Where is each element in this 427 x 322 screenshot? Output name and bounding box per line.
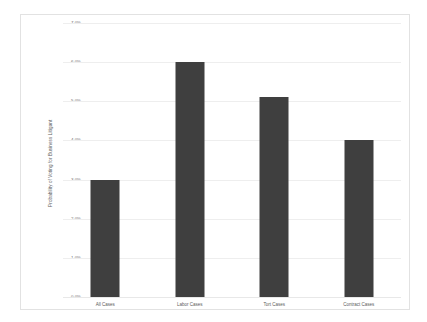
bar-series (63, 23, 401, 297)
x-tick-label: Contract Cases (343, 303, 374, 308)
gridline (63, 297, 401, 298)
chart-frame: Probability of Voting for Business Litig… (20, 14, 410, 310)
bar[interactable] (344, 140, 373, 297)
bar[interactable] (175, 62, 204, 297)
bar-column[interactable] (91, 23, 120, 297)
x-tick-label: All Cases (96, 303, 115, 308)
bar[interactable] (91, 180, 120, 297)
plot-area (63, 23, 401, 297)
x-tick-label: Labor Cases (177, 303, 203, 308)
x-tick-label: Tort Cases (263, 303, 285, 308)
bar-column[interactable] (344, 23, 373, 297)
bar[interactable] (260, 97, 289, 297)
x-axis-tick-labels: All CasesLabor CasesTort CasesContract C… (63, 303, 401, 315)
bar-column[interactable] (260, 23, 289, 297)
bar-column[interactable] (175, 23, 204, 297)
y-axis-title-text: Probability of Voting for Business Litig… (50, 119, 55, 206)
